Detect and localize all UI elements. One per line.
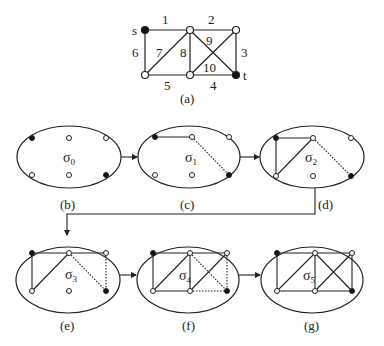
edge-label-8: 8 — [180, 45, 187, 60]
edge-label-5: 5 — [164, 78, 171, 93]
caption-f: (f) — [182, 318, 195, 333]
caption-b: (b) — [60, 197, 75, 212]
caption-g: (g) — [304, 318, 319, 333]
state-g-edges — [277, 253, 352, 291]
edge-label-4: 4 — [210, 78, 217, 93]
source-label: s — [132, 23, 137, 38]
edge-label-3: 3 — [241, 45, 248, 60]
sigma-g: σ5 — [303, 268, 316, 285]
sigma-e: σ3 — [65, 267, 78, 284]
caption-e: (e) — [60, 318, 74, 333]
row1-arrows — [67, 157, 315, 235]
target-label: t — [243, 68, 247, 83]
sigma-c: σ1 — [185, 150, 197, 167]
sigma-b: σ0 — [63, 150, 76, 167]
edge-label-2: 2 — [208, 12, 215, 27]
edge-label-7: 7 — [156, 45, 163, 60]
caption-c: (c) — [180, 197, 194, 212]
edge-label-9: 9 — [206, 33, 213, 48]
caption-a: (a) — [180, 91, 194, 106]
sigma-d: σ2 — [305, 150, 317, 167]
state-f-edges — [153, 253, 227, 291]
edge-label-10: 10 — [203, 60, 216, 75]
edge-label-1: 1 — [162, 12, 169, 27]
diagram-canvas: s t 1 2 3 4 5 6 7 8 9 10 (a) — [0, 0, 384, 346]
edge-label-6: 6 — [132, 45, 139, 60]
caption-d: (d) — [318, 197, 333, 212]
